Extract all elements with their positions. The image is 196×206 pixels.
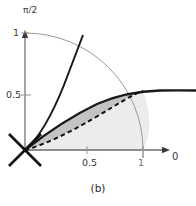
y-tick-label-0-5: 0.5 bbox=[6, 90, 21, 100]
x-axis-end-label: 0 bbox=[172, 152, 178, 162]
y-tick-label-1: 1 bbox=[13, 28, 19, 38]
x-axis-arrow-icon bbox=[162, 147, 170, 153]
x-tick-label-0-5: 0.5 bbox=[82, 158, 97, 168]
y-axis-arrow-icon bbox=[22, 30, 28, 38]
x-tick-label-1: 1 bbox=[138, 158, 144, 168]
plot-canvas bbox=[0, 0, 196, 206]
y-axis-top-label: π/2 bbox=[23, 6, 37, 15]
figure-container: π/2 1 0.5 0.5 1 0 (b) bbox=[0, 0, 196, 206]
figure-caption: (b) bbox=[0, 182, 196, 194]
